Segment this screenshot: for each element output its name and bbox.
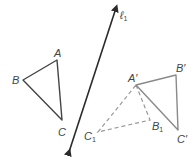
vertex-label-c: C — [58, 126, 66, 138]
vertex-label-a-prime: A′ — [127, 72, 138, 84]
vertex-label-b1: B1 — [152, 120, 163, 133]
vertex-label-b: B — [12, 74, 19, 86]
vertex-label-c1: C1 — [84, 130, 96, 143]
reflection-diagram: ℓ1 A B C B1 C1 A′ B′ C′ — [0, 0, 194, 162]
line-of-reflection-l1 — [69, 8, 116, 152]
vertex-label-a: A — [53, 47, 61, 59]
vertex-label-b-prime: B′ — [176, 62, 186, 74]
vertex-label-c-prime: C′ — [177, 133, 188, 145]
line-label-l1: ℓ1 — [119, 9, 128, 22]
triangle-abc — [23, 60, 62, 120]
